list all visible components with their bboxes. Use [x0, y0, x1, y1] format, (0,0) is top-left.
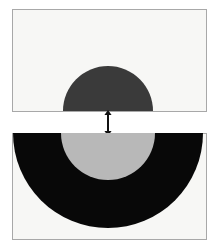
- top-panel-graphic: [12, 9, 207, 112]
- top-panel: [12, 9, 207, 112]
- bottom-panel: [12, 133, 207, 240]
- dark-gray-half-disc: [63, 66, 153, 111]
- bottom-panel-graphic: [12, 133, 207, 240]
- figure-root: [0, 0, 218, 249]
- arrow-head-up-icon: [104, 110, 111, 115]
